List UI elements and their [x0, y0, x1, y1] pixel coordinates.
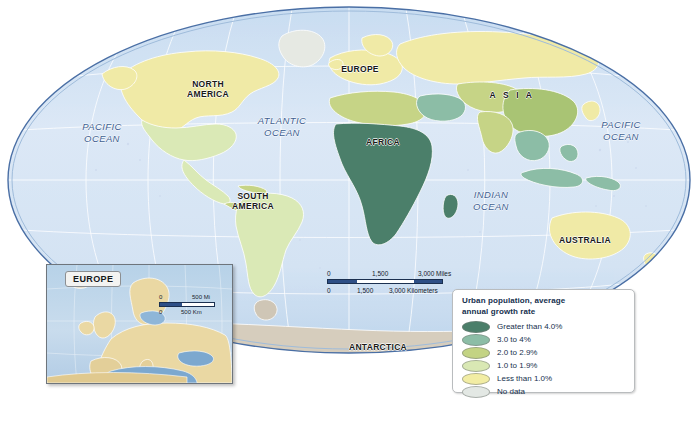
main-scalebar: 0 1,500 3,000 Miles 0 1,500 3,000 Kilome…	[327, 270, 451, 300]
inset-scale-miles-labels: 0 500 Mi	[159, 294, 221, 302]
main-scale-miles-tick-0: 0	[327, 270, 331, 277]
main-scalebar-miles-labels: 0 1,500 3,000 Miles	[327, 270, 451, 279]
legend-swatch-2-to-2-9	[462, 347, 490, 359]
legend-swatch-3-to-4	[462, 334, 490, 346]
main-scale-miles-tick-1: 1,500	[372, 270, 388, 277]
legend-swatch-no-data	[462, 386, 490, 398]
legend-title: Urban population, average annual growth …	[462, 296, 626, 317]
inset-scale-miles-tick-1: 500 Mi	[192, 294, 210, 300]
main-scalebar-km-labels: 0 1,500 3,000 Kilometers	[327, 287, 451, 296]
inset-scale-km-tick-0: 0	[159, 309, 162, 315]
legend-item[interactable]: 1.0 to 1.9%	[462, 359, 626, 372]
main-scale-miles-tick-2: 3,000 Miles	[418, 270, 451, 277]
legend-item[interactable]: Greater than 4.0%	[462, 320, 626, 333]
europe-inset-scalebar: 0 500 Mi 0 500 Km	[159, 294, 221, 320]
inset-scale-km-tick-1: 500 Km	[181, 309, 202, 315]
legend-item[interactable]: 3.0 to 4%	[462, 333, 626, 346]
main-scale-km-tick-2: 3,000 Kilometers	[389, 287, 438, 294]
legend-label: 2.0 to 2.9%	[497, 348, 537, 358]
legend-swatch-greater-than-4	[462, 321, 490, 333]
legend-swatch-less-than-1	[462, 373, 490, 385]
europe-inset-map[interactable]: EUROPE 0 500 Mi 0 500 Km	[46, 264, 233, 384]
legend-item[interactable]: 2.0 to 2.9%	[462, 346, 626, 359]
landmass-russia	[397, 32, 599, 85]
main-scale-km-tick-1: 1,500	[357, 287, 373, 294]
legend-item[interactable]: No data	[462, 385, 626, 398]
inset-scale-km-labels: 0 500 Km	[159, 309, 221, 317]
main-scalebar-bar	[327, 279, 451, 286]
legend-label: No data	[497, 387, 525, 397]
legend-swatch-1-to-1-9	[462, 360, 490, 372]
inset-scale-miles-tick-0: 0	[159, 294, 162, 300]
legend-label: 3.0 to 4%	[497, 335, 531, 345]
inset-scalebar-bar	[159, 302, 221, 308]
legend-label: 1.0 to 1.9%	[497, 361, 537, 371]
legend-label: Greater than 4.0%	[497, 322, 562, 332]
landmass-antarctic-peninsula	[254, 300, 277, 320]
legend-label: Less than 1.0%	[497, 374, 552, 384]
main-scale-km-tick-0: 0	[327, 287, 331, 294]
legend-item[interactable]: Less than 1.0%	[462, 372, 626, 385]
europe-inset-title: EUROPE	[65, 271, 121, 287]
map-page: NORTH AMERICA SOUTH AMERICA EUROPE AFRIC…	[0, 0, 698, 436]
map-legend: Urban population, average annual growth …	[452, 289, 635, 393]
